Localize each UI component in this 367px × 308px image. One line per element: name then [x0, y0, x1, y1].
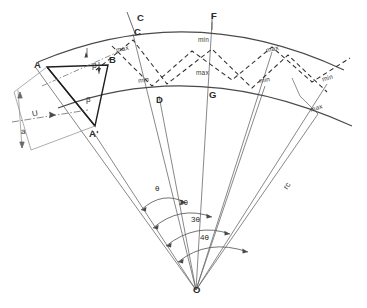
beta-angle-label-upper: β [92, 62, 97, 70]
velocity-vector-U [12, 110, 88, 122]
angle-label-2theta: 2θ [179, 199, 188, 207]
point-label-F: F [211, 11, 217, 21]
sector-geometry-drawing [0, 0, 367, 308]
max-leader-line-2 [292, 78, 300, 96]
zigzag-path-upper [96, 40, 327, 92]
dim-arrow-line [18, 90, 22, 148]
pitch-dimension-box [14, 67, 95, 150]
dashed-zigzag-upper [96, 40, 327, 92]
radial-line-C [133, 34, 196, 290]
radial-lines-group [36, 22, 327, 290]
arrow-head-down [20, 142, 24, 148]
beta-arrow-head-lower [97, 68, 101, 73]
velocity-label-U: U [31, 110, 38, 119]
point-label-D: D [156, 95, 163, 105]
extrema-label-max-2: max [196, 70, 209, 77]
radial-line-A [36, 68, 196, 290]
beta-angle-label-lower: β [86, 96, 91, 104]
radial-line-max-right [196, 52, 272, 290]
radial-line-outer-right [196, 84, 327, 290]
point-label-B: B [109, 55, 116, 65]
u-arrow-head [49, 112, 56, 119]
angle-label-4theta: 4θ [200, 234, 209, 242]
figure-canvas: A B A' C C D F G O max min min max max m… [0, 0, 367, 308]
angle-label-theta: θ [155, 185, 159, 193]
radial-line-max-far-right [196, 114, 318, 290]
dim-line-bottom [31, 126, 95, 150]
angle-arc-3theta [166, 230, 230, 246]
angle-label-3theta: 3θ [191, 216, 200, 224]
point-label-C-prime: C [137, 13, 144, 23]
point-label-O: O [193, 285, 201, 295]
point-label-C: C [134, 27, 141, 37]
extrema-label-min-2: min [198, 37, 209, 44]
pitch-label-a: a [20, 128, 26, 137]
dim-line-top [14, 67, 47, 92]
point-label-G: G [209, 90, 217, 100]
point-label-A: A [34, 60, 41, 70]
point-label-A-prime: A' [89, 129, 99, 139]
